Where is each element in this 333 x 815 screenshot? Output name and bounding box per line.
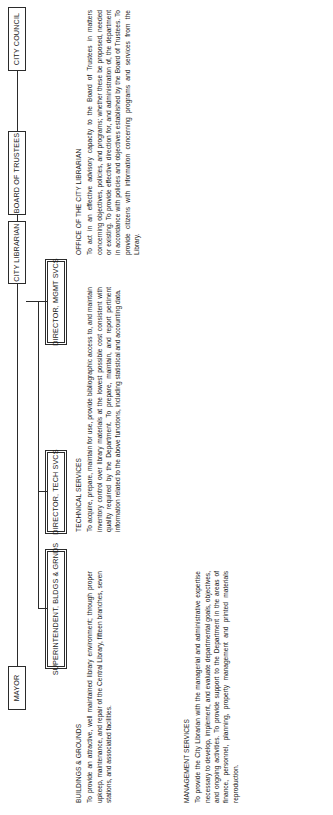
box-board-of-trustees: BOARD OF TRUSTEES [8,131,26,215]
narrative-buildings-grounds: BUILDINGS & GROUNDS To provide an attrac… [74,571,113,803]
connector-trustees-council [17,71,18,131]
narrative-buildings-grounds-body: To provide an attractive, well maintaine… [85,571,113,803]
connector-drop-bldgs-grnds [38,608,47,609]
connector-top-spine-left [17,284,18,666]
box-mayor: MAYOR [8,666,26,710]
connector-drop-tech-svcs [38,491,47,492]
narrative-technical-services-heading: TECHNICAL SERVICES [74,287,83,532]
connector-librarian-drop [26,301,38,302]
connector-division-bus [38,302,39,609]
narrative-management-services-heading: MANAGEMENT SERVICES [182,571,191,803]
box-superintendent-bldgs-grnds-label: SUPERINTENDENT, BLDGS & GRNDS [52,543,59,676]
box-director-tech-svcs-label: DIRECTOR, TECH SVCS [52,449,59,534]
box-superintendent-bldgs-grnds: SUPERINTENDENT, BLDGS & GRNDS [47,551,65,667]
narrative-office-city-librarian-body: To act in an effective advisory capacity… [85,10,141,255]
narrative-technical-services: TECHNICAL SERVICES To acquire, prepare, … [74,287,123,532]
narrative-office-city-librarian: OFFICE OF THE CITY LIBRARIAN To act in a… [74,10,142,255]
box-mayor-label: MAYOR [13,675,20,702]
narrative-buildings-grounds-heading: BUILDINGS & GROUNDS [74,571,83,803]
box-board-of-trustees-label: BOARD OF TRUSTEES [13,133,20,213]
organization-chart: CITY COUNCIL BOARD OF TRUSTEES CITY LIBR… [0,0,333,815]
rotated-page-canvas: CITY COUNCIL BOARD OF TRUSTEES CITY LIBR… [0,0,333,815]
box-director-tech-svcs: DIRECTOR, TECH SVCS [47,452,65,532]
narrative-technical-services-body: To acquire, prepare, maintain for use, p… [85,287,122,532]
box-city-librarian: CITY LIBRARIAN [8,221,26,284]
narrative-management-services: MANAGEMENT SERVICES To provide the City … [182,571,240,803]
connector-trustees-librarian [17,215,18,221]
box-director-mgmt-svcs-label: DIRECTOR, MGMT SVCS [52,258,59,346]
box-city-librarian-label: CITY LIBRARIAN [13,223,20,281]
narrative-office-city-librarian-heading: OFFICE OF THE CITY LIBRARIAN [74,10,83,255]
narrative-management-services-body: To provide the City Librarian with the m… [193,571,240,803]
box-city-council: CITY COUNCIL [8,7,26,71]
box-director-mgmt-svcs: DIRECTOR, MGMT SVCS [47,261,65,343]
box-city-council-label: CITY COUNCIL [13,13,20,65]
connector-drop-mgmt-svcs [38,301,47,302]
